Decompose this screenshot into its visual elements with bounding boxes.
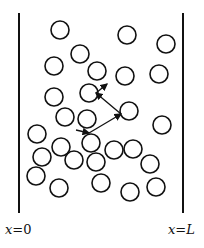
particle	[51, 21, 69, 39]
particle	[80, 84, 98, 102]
particle	[141, 155, 159, 173]
particle	[88, 62, 106, 80]
label-x-equals-L: x=L	[168, 222, 195, 237]
particle	[121, 183, 139, 201]
label-x-equals-0: x=0	[5, 222, 32, 237]
particle	[50, 179, 68, 197]
particle	[105, 141, 123, 159]
path-arrow	[76, 130, 89, 133]
particle	[45, 88, 63, 106]
particle	[153, 116, 171, 134]
particle	[56, 108, 74, 126]
particle	[116, 67, 134, 85]
particle	[82, 134, 100, 152]
particle	[92, 174, 110, 192]
particle	[87, 153, 105, 171]
particle	[124, 140, 142, 158]
random-walk-path	[76, 84, 121, 133]
particle	[65, 151, 83, 169]
particles-group	[27, 21, 175, 201]
diffusion-diagram: x=0 x=L	[0, 0, 204, 248]
path-arrow	[89, 114, 121, 133]
particle	[150, 65, 168, 83]
particle	[118, 26, 136, 44]
particle	[33, 148, 51, 166]
particle	[71, 45, 89, 63]
particle	[120, 102, 138, 120]
particle	[147, 178, 165, 196]
path-arrow	[96, 93, 121, 114]
particle	[27, 167, 45, 185]
particle	[45, 57, 63, 75]
diagram-canvas	[0, 0, 204, 248]
particle	[157, 35, 175, 53]
particle	[78, 110, 96, 128]
particle	[28, 125, 46, 143]
